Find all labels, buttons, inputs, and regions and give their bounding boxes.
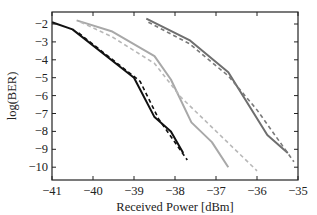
plot-frame xyxy=(52,12,298,180)
x-tick-label: −35 xyxy=(288,184,308,198)
x-tick-label: −39 xyxy=(124,184,144,198)
y-tick-label: −4 xyxy=(35,53,49,67)
x-tick-label: −37 xyxy=(206,184,226,198)
x-axis-label: Received Power [dBm] xyxy=(116,200,233,214)
x-axis: −41−40−39−38−37−36−35 xyxy=(42,12,308,198)
y-tick-label: −2 xyxy=(35,17,48,31)
ber-chart: −41−40−39−38−37−36−35 −2−3−4−5−6−7−8−9−1… xyxy=(0,0,317,215)
x-tick-label: −40 xyxy=(83,184,103,198)
y-tick-label: −6 xyxy=(35,89,48,103)
series-line-3 xyxy=(81,22,257,171)
x-tick-label: −38 xyxy=(165,184,185,198)
y-tick-label: −8 xyxy=(35,124,48,138)
y-axis: −2−3−4−5−6−7−8−9−10 xyxy=(28,17,298,174)
y-tick-label: −9 xyxy=(35,142,48,156)
y-tick-label: −10 xyxy=(28,160,48,174)
y-tick-label: −5 xyxy=(35,71,48,85)
series-line-5 xyxy=(148,22,294,162)
y-axis-label: log(BER) xyxy=(5,72,19,121)
series-line-0 xyxy=(52,22,183,153)
y-tick-label: −3 xyxy=(35,35,48,49)
x-tick-label: −36 xyxy=(247,184,267,198)
x-tick-label: −41 xyxy=(42,184,62,198)
series-line-1 xyxy=(79,33,188,160)
y-tick-label: −7 xyxy=(35,107,48,121)
plot-lines xyxy=(52,19,294,171)
series-line-2 xyxy=(77,20,229,167)
